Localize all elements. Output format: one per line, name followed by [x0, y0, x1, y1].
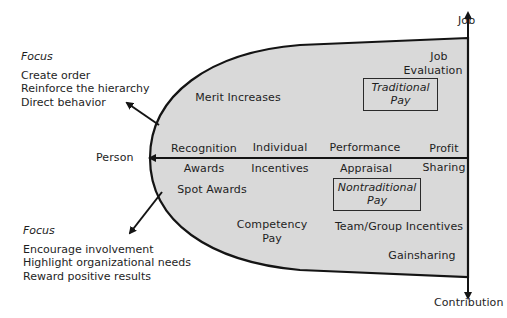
spot-awards-label: Spot Awards: [177, 183, 246, 196]
sharing-label: Sharing: [423, 161, 466, 174]
awards-label: Awards: [184, 162, 224, 175]
focus-top-item: Reinforce the hierarchy: [21, 82, 150, 96]
competency-pay-label-line1: Competency: [237, 218, 308, 231]
competency-pay-label-line2: Pay: [262, 232, 282, 245]
gainsharing-label: Gainsharing: [388, 249, 455, 262]
focus-bottom-item: Reward positive results: [23, 270, 191, 284]
focus-bottom-block: Focus Encourage involvement Highlight or…: [23, 224, 191, 283]
nontraditional-pay-label-line2: Pay: [334, 194, 420, 207]
focus-bottom-title: Focus: [23, 224, 191, 238]
appraisal-label: Appraisal: [340, 162, 392, 175]
person-axis-label: Person: [96, 151, 134, 164]
traditional-pay-box: Traditional Pay: [363, 78, 438, 111]
nontraditional-pay-label-line1: Nontraditional: [334, 181, 420, 194]
job-evaluation-label-line2: Evaluation: [403, 64, 462, 77]
merit-increases-label: Merit Increases: [195, 91, 280, 104]
focus-top-item: Direct behavior: [21, 96, 150, 110]
performance-label: Performance: [330, 141, 401, 154]
job-evaluation-label-line1: Job: [430, 50, 447, 63]
individual-label: Individual: [253, 141, 308, 154]
team-group-incentives-label: Team/Group Incentives: [335, 220, 463, 233]
incentives-label: Incentives: [251, 162, 308, 175]
job-axis-label: Job: [458, 14, 475, 27]
traditional-pay-label-line1: Traditional: [364, 81, 437, 94]
focus-bottom-item: Encourage involvement: [23, 243, 191, 257]
focus-bottom-item: Highlight organizational needs: [23, 256, 191, 270]
focus-top-item: Create order: [21, 69, 150, 83]
traditional-pay-label-line2: Pay: [364, 94, 437, 107]
focus-top-block: Focus Create order Reinforce the hierarc…: [21, 50, 150, 109]
nontraditional-pay-box: Nontraditional Pay: [333, 178, 421, 211]
focus-top-title: Focus: [21, 50, 150, 64]
recognition-label: Recognition: [171, 142, 237, 155]
profit-label: Profit: [429, 142, 458, 155]
contribution-axis-label: Contribution: [434, 296, 504, 309]
